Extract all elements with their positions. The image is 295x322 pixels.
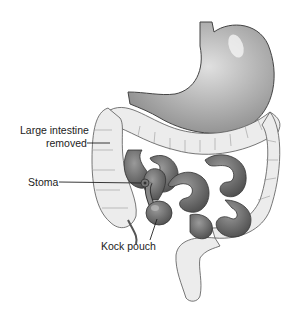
label-large-intestine-line1: Large intestine	[20, 124, 89, 136]
stoma	[141, 179, 149, 187]
stomach	[128, 22, 274, 133]
label-kock-pouch: Kock pouch	[101, 240, 156, 252]
label-stoma: Stoma	[28, 176, 58, 188]
small-intestine	[124, 150, 251, 239]
digestive-tract-illustration	[0, 0, 295, 322]
label-large-intestine-line2: removed	[46, 137, 87, 149]
